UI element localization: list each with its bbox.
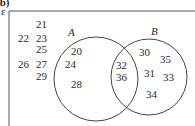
element-outside: 22	[18, 32, 29, 44]
element-a-only: 24	[65, 58, 77, 70]
element-a-only: 28	[71, 78, 83, 90]
set-a-label: A	[67, 26, 75, 38]
element-outside: 29	[36, 70, 48, 82]
element-a-and-b: 36	[116, 71, 128, 83]
element-b-only: 31	[144, 67, 155, 79]
element-outside: 25	[36, 43, 48, 55]
universal-set-symbol: ε	[1, 5, 6, 17]
element-b-only: 33	[163, 71, 175, 83]
set-b-label: B	[151, 25, 158, 37]
element-a-only: 20	[71, 45, 83, 57]
element-b-only: 34	[146, 88, 158, 100]
element-a-and-b: 32	[116, 59, 127, 71]
element-b-only: 35	[160, 53, 172, 65]
element-outside: 21	[36, 18, 47, 30]
element-outside: 27	[36, 58, 48, 70]
venn-diagram: (b) ε AB 2122232526272920242832363035313…	[0, 0, 195, 126]
element-outside: 26	[18, 58, 30, 70]
element-b-only: 30	[139, 46, 151, 58]
